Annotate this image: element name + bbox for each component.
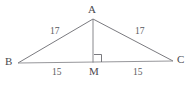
vertex-label-a: A [88, 4, 96, 15]
vertex-label-m: M [89, 66, 99, 77]
length-label-ac: 17 [135, 27, 145, 37]
length-label-ab: 17 [50, 27, 60, 37]
vertex-label-b: B [5, 56, 12, 67]
right-angle-marker-icon [94, 55, 102, 63]
segment-bc-line [18, 61, 173, 63]
length-label-mc: 15 [133, 68, 143, 78]
triangle-figure [0, 0, 190, 100]
segment-ac-line [93, 19, 173, 61]
length-label-bm: 15 [52, 68, 62, 78]
vertex-label-c: C [177, 54, 184, 65]
geometry-diagram: A B C M 17 17 15 15 [0, 0, 190, 100]
